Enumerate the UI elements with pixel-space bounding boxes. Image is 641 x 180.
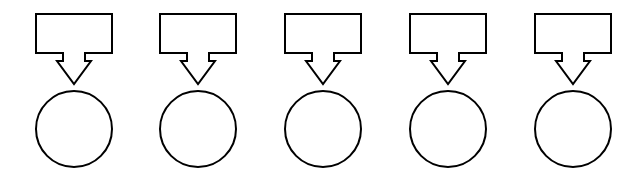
shape-group-1[interactable] [36,14,112,167]
diagram-canvas [0,0,641,180]
shape-group-5[interactable] [535,14,611,167]
callout-box-with-arrow[interactable] [410,14,486,84]
circle-node[interactable] [160,91,236,167]
shape-group-2[interactable] [160,14,236,167]
callout-box-with-arrow[interactable] [285,14,361,84]
diagram-svg-root [0,0,641,180]
circle-node[interactable] [410,91,486,167]
circle-node[interactable] [36,91,112,167]
shape-group-3[interactable] [285,14,361,167]
shape-group-4[interactable] [410,14,486,167]
circle-node[interactable] [285,91,361,167]
callout-box-with-arrow[interactable] [160,14,236,84]
callout-box-with-arrow[interactable] [36,14,112,84]
callout-box-with-arrow[interactable] [535,14,611,84]
circle-node[interactable] [535,91,611,167]
